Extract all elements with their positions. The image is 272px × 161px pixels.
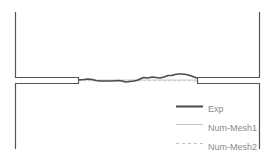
legend-label: Num-Mesh1 xyxy=(208,123,257,133)
legend-item-exp: Exp xyxy=(175,99,270,118)
legend-label: Num-Mesh2 xyxy=(208,142,257,152)
legend-label: Exp xyxy=(208,104,224,114)
legend-item-num-mesh2: Num-Mesh2 xyxy=(175,137,270,156)
legend: Exp Num-Mesh1 Num-Mesh2 xyxy=(175,99,270,156)
legend-item-num-mesh1: Num-Mesh1 xyxy=(175,118,270,137)
specimen-left-outline xyxy=(16,12,79,149)
